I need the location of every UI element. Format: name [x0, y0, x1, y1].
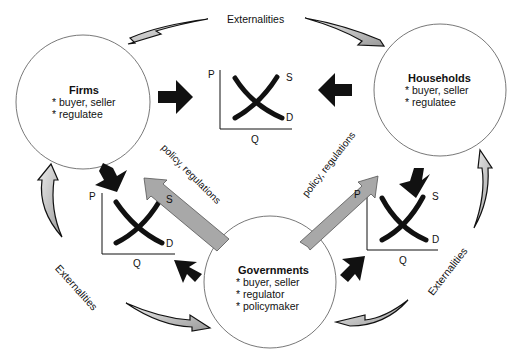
top-chart-s-label: S [286, 72, 293, 83]
externality-arrow-top-right [305, 18, 384, 46]
market-chart-top [220, 70, 292, 129]
right-chart-p-label: P [354, 189, 361, 200]
left-chart-d-label: D [166, 238, 173, 249]
right-chart-q-label: Q [399, 255, 407, 266]
governments-role-3: * policymaker [236, 300, 309, 312]
governments-title: Governments [236, 264, 309, 276]
externality-arrow-top-left [128, 19, 208, 44]
right-chart-s-label: S [432, 191, 439, 202]
externalities-label-top: Externalities [227, 13, 284, 25]
top-chart-q-label: Q [251, 134, 259, 145]
arrow-firms-down-to-market [95, 163, 127, 192]
arrow-households-to-market [318, 73, 352, 107]
governments-role-1: * buyer, seller [236, 276, 309, 288]
firms-node: Firms * buyer, seller * regulatee [52, 84, 116, 120]
right-chart-d-label: D [432, 234, 439, 245]
households-role-2: * regulatee [405, 96, 471, 108]
firms-role-2: * regulatee [52, 108, 116, 120]
externality-arrow-left [38, 164, 62, 237]
households-role-1: * buyer, seller [405, 84, 471, 96]
firms-title: Firms [52, 84, 116, 96]
households-node: Households * buyer, seller * regulatee [405, 72, 471, 108]
market-chart-right [367, 190, 438, 250]
arrow-governments-to-right-market [340, 256, 365, 282]
firms-role-1: * buyer, seller [52, 96, 116, 108]
top-chart-p-label: P [208, 69, 215, 80]
left-chart-q-label: Q [133, 258, 141, 269]
left-chart-p-label: P [89, 191, 96, 202]
externality-arrow-bottom-left [126, 303, 210, 331]
externality-arrow-bottom-right [336, 300, 408, 326]
governments-node: Governments * buyer, seller * regulator … [236, 264, 309, 312]
top-chart-d-label: D [286, 112, 293, 123]
externality-arrow-right [474, 150, 492, 228]
arrow-households-down-to-market [399, 168, 430, 198]
arrow-governments-to-left-market [174, 260, 202, 283]
arrow-firms-to-market [158, 80, 193, 114]
governments-role-2: * regulator [236, 288, 309, 300]
left-chart-s-label: S [166, 194, 173, 205]
households-title: Households [405, 72, 471, 84]
